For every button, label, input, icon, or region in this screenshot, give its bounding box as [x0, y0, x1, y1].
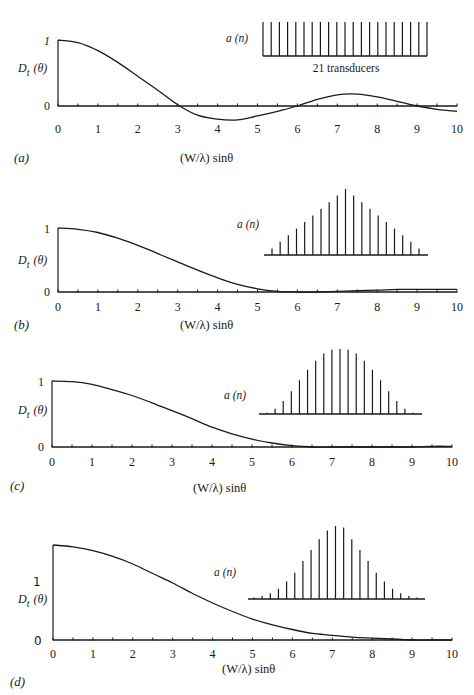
- x-tick-label: 2: [135, 122, 141, 136]
- x-tick-label: 8: [374, 300, 380, 314]
- panel-b-label: (b): [14, 317, 29, 332]
- panel-b: 1 0 Dt(θ) a (n) (W/λ) sinθ (b) 012345678…: [14, 189, 463, 332]
- x-tick-label: 2: [129, 455, 135, 469]
- x-tick-label: 3: [170, 647, 176, 661]
- panel-b-inset: [264, 189, 428, 255]
- x-tick-label: 1: [89, 455, 95, 469]
- panel-c-inset: [259, 349, 422, 414]
- panel-a-inset: [263, 22, 427, 56]
- panel-d-y-axis-label: Dt(θ): [17, 592, 47, 609]
- x-tick-label: 1: [95, 300, 101, 314]
- x-tick-label: 4: [215, 300, 221, 314]
- panel-d-inset: [248, 526, 425, 599]
- x-tick-label: 6: [294, 300, 300, 314]
- panel-c: 1 0 Dt(θ) a (n) (W/λ) sinθ (c) 012345678…: [10, 349, 458, 495]
- panel-a-inset-label: a (n): [226, 32, 248, 45]
- x-tick-label: 6: [294, 122, 300, 136]
- x-tick-label: 5: [255, 300, 261, 314]
- x-tick-label: 1: [95, 122, 101, 136]
- x-tick-label: 10: [451, 300, 463, 314]
- panel-c-label: (c): [10, 478, 24, 493]
- x-tick-label: 7: [329, 455, 335, 469]
- x-tick-label: 10: [451, 122, 463, 136]
- x-tick-label: 7: [334, 122, 340, 136]
- x-tick-label: 5: [255, 122, 261, 136]
- x-tick-label: 9: [414, 122, 420, 136]
- panel-b-curve: [58, 228, 457, 292]
- x-tick-label: 4: [215, 122, 221, 136]
- panel-a-y-tick-1: 1: [44, 34, 50, 48]
- x-tick-label: 4: [210, 647, 216, 661]
- panel-a-axes: [58, 40, 457, 107]
- panel-d-x-axis-label: (W/λ) sinθ: [222, 662, 275, 676]
- panel-a-inset-annotation: 21 transducers: [313, 62, 380, 74]
- x-tick-label: 10: [446, 455, 458, 469]
- x-tick-label: 8: [369, 647, 375, 661]
- x-tick-label: 2: [130, 647, 136, 661]
- panel-d-y-tick-0: 0: [34, 634, 42, 648]
- panel-b-y-axis-label: Dt(θ): [17, 253, 47, 270]
- x-tick-label: 9: [414, 300, 420, 314]
- x-tick-label: 5: [249, 455, 255, 469]
- x-tick-label: 7: [334, 300, 340, 314]
- panel-a: 1 0 Dt(θ) a (n) 21 transducers (W/λ) sin…: [14, 22, 463, 165]
- x-tick-label: 0: [55, 122, 61, 136]
- x-tick-label: 2: [135, 300, 141, 314]
- panel-d-y-tick-1: 1: [33, 575, 41, 589]
- panel-c-y-axis-label: Dt(θ): [17, 403, 47, 420]
- x-tick-label: 8: [369, 455, 375, 469]
- panel-d-inset-label: a (n): [214, 566, 236, 579]
- x-tick-label: 9: [409, 647, 415, 661]
- x-tick-label: 4: [209, 455, 215, 469]
- panel-a-x-axis-label: (W/λ) sinθ: [180, 151, 233, 165]
- x-tick-label: 0: [55, 300, 61, 314]
- x-tick-label: 10: [446, 647, 458, 661]
- x-tick-label: 9: [409, 455, 415, 469]
- panel-b-x-tick-labels: 012345678910: [55, 300, 463, 314]
- x-tick-label: 8: [374, 122, 380, 136]
- panel-a-y-tick-0: 0: [44, 99, 50, 113]
- panel-b-x-axis-label: (W/λ) sinθ: [180, 318, 233, 332]
- panel-c-y-tick-0: 0: [38, 440, 44, 454]
- figure: 1 0 Dt(θ) a (n) 21 transducers (W/λ) sin…: [0, 0, 474, 695]
- panel-d: 1 0 Dt(θ) a (n) (W/λ) sinθ (d) 012345678…: [10, 526, 458, 689]
- x-tick-label: 3: [175, 300, 181, 314]
- panel-c-inset-label: a (n): [224, 389, 246, 402]
- x-tick-label: 0: [50, 647, 56, 661]
- panel-d-x-tick-labels: 012345678910: [50, 647, 458, 661]
- panel-a-x-tick-labels: 012345678910: [55, 122, 463, 136]
- panel-a-curve: [58, 40, 457, 120]
- x-tick-label: 0: [49, 455, 55, 469]
- panel-a-y-axis-label: Dt(θ): [17, 61, 47, 78]
- x-tick-label: 5: [250, 647, 256, 661]
- panel-c-x-tick-labels: 012345678910: [49, 455, 458, 469]
- x-tick-label: 3: [175, 122, 181, 136]
- panel-a-label: (a): [14, 150, 29, 165]
- panel-b-inset-label: a (n): [237, 218, 259, 231]
- panel-d-label: (d): [10, 674, 25, 689]
- panel-c-y-tick-1: 1: [38, 375, 44, 389]
- x-tick-label: 7: [329, 647, 335, 661]
- x-tick-label: 6: [289, 455, 295, 469]
- panel-b-y-tick-0: 0: [44, 285, 50, 299]
- x-tick-label: 3: [169, 455, 175, 469]
- x-tick-label: 1: [90, 647, 96, 661]
- x-tick-label: 6: [289, 647, 295, 661]
- panel-c-x-axis-label: (W/λ) sinθ: [193, 481, 246, 495]
- panel-b-y-tick-1: 1: [44, 222, 50, 236]
